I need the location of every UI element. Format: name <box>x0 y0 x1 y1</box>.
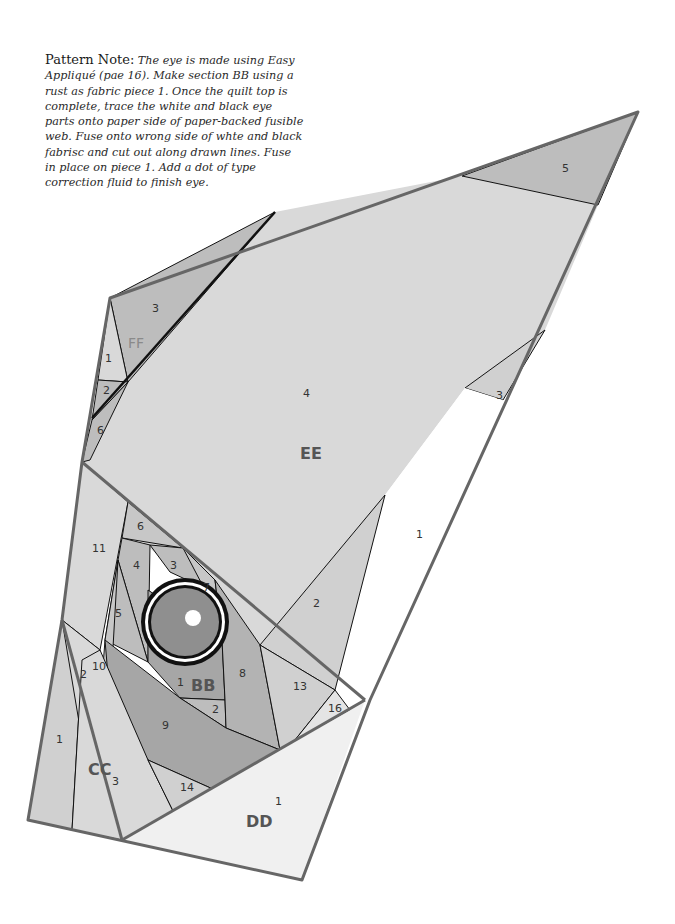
section-label-ff: FF <box>128 335 144 351</box>
section-label-ee: EE <box>300 444 322 463</box>
label-bb-8: 8 <box>239 667 246 680</box>
label-cc-14: 14 <box>180 781 194 794</box>
eye-iris <box>151 588 219 656</box>
label-bb-7: 7 <box>203 581 210 594</box>
label-cc-2: 2 <box>80 668 87 681</box>
label-ee-1: 1 <box>416 528 423 541</box>
label-bb-4: 4 <box>133 559 140 572</box>
section-label-cc: CC <box>88 760 111 779</box>
label-bb-6: 6 <box>137 520 144 533</box>
section-label-dd: DD <box>246 812 273 831</box>
label-bb-1: 1 <box>177 676 184 689</box>
label-ff-2: 2 <box>103 384 110 397</box>
label-dd-1: 1 <box>275 795 282 808</box>
label-bb-3: 3 <box>170 559 177 572</box>
label-bb-16: 16 <box>328 702 342 715</box>
label-cc-1: 1 <box>56 733 63 746</box>
label-bb-2: 2 <box>212 703 219 716</box>
label-bb-13: 13 <box>293 680 307 693</box>
label-bb-10: 10 <box>92 660 106 673</box>
label-ff-6: 6 <box>97 424 104 437</box>
eye-highlight <box>185 610 201 626</box>
section-label-bb: BB <box>191 676 215 695</box>
label-bb-5: 5 <box>115 607 122 620</box>
label-ff-3: 3 <box>152 302 159 315</box>
label-ee-4: 4 <box>303 387 310 400</box>
label-cc-3: 3 <box>112 775 119 788</box>
label-ff-1: 1 <box>105 352 112 365</box>
label-ee-3: 3 <box>496 389 503 402</box>
quilt-pattern-diagram: 5 4 3 2 1 EE 3 FF 1 2 6 6 11 4 3 7 5 10 … <box>0 0 675 924</box>
label-bb-11: 11 <box>92 542 106 555</box>
label-ee-5: 5 <box>562 162 569 175</box>
label-ee-2: 2 <box>313 597 320 610</box>
label-bb-9: 9 <box>162 719 169 732</box>
